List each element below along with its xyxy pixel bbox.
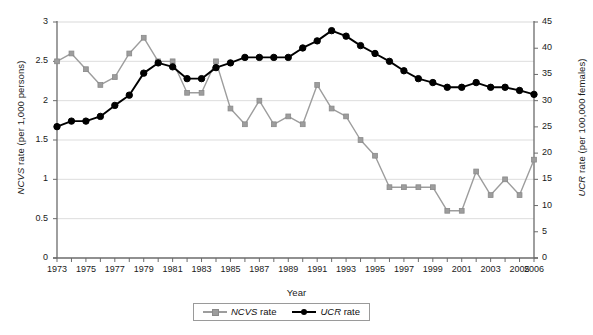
y-axis-left-tick-label: 0.5 xyxy=(22,213,48,223)
series-line xyxy=(57,38,534,211)
legend-label-ucr: UCR rate xyxy=(320,306,360,317)
y-axis-right-title-italic: UCR xyxy=(576,176,587,197)
data-point xyxy=(357,42,363,48)
data-point xyxy=(473,79,479,85)
y-axis-left-tick-label: 2.5 xyxy=(22,55,48,65)
data-point xyxy=(112,102,118,108)
data-point xyxy=(372,50,378,56)
y-axis-left-title-rest: rate (per 1,000 persons) xyxy=(15,61,26,168)
data-point xyxy=(532,157,537,162)
data-point xyxy=(69,51,74,56)
data-point xyxy=(98,83,103,88)
data-point xyxy=(517,193,522,198)
data-point xyxy=(228,106,233,111)
data-point xyxy=(199,90,204,95)
y-axis-right-tick-label: 10 xyxy=(542,200,568,210)
y-axis-left-tick-label: 1.5 xyxy=(22,134,48,144)
data-point xyxy=(415,75,421,81)
data-point xyxy=(503,177,508,182)
data-point xyxy=(386,58,392,64)
data-point xyxy=(68,118,74,124)
y-axis-right-tick-label: 30 xyxy=(542,95,568,105)
data-point xyxy=(141,35,146,40)
data-point xyxy=(84,67,89,72)
data-point xyxy=(300,45,306,51)
y-axis-right-tick-label: 25 xyxy=(542,121,568,131)
data-point xyxy=(328,27,334,33)
data-point xyxy=(285,54,291,60)
data-point xyxy=(169,64,175,70)
legend-item-ncvs[interactable]: NCVS rate xyxy=(203,306,276,317)
legend-marker-circle-icon xyxy=(292,307,316,316)
legend-label-ncvs: NCVS rate xyxy=(231,306,276,317)
y-axis-right-tick-label: 15 xyxy=(542,173,568,183)
data-point xyxy=(430,185,435,190)
chart-legend: NCVS rate UCR rate xyxy=(193,303,370,321)
data-point xyxy=(416,185,421,190)
data-point xyxy=(358,138,363,143)
data-point xyxy=(271,54,277,60)
y-axis-right-title: UCR rate (per 100,000 females) xyxy=(576,33,587,223)
y-axis-left-tick-label: 0 xyxy=(22,252,48,262)
data-point xyxy=(286,114,291,119)
series-ncvs-rate xyxy=(55,35,537,213)
data-point xyxy=(487,84,493,90)
legend-item-ucr[interactable]: UCR rate xyxy=(292,306,360,317)
y-axis-left-tick-label: 2 xyxy=(22,95,48,105)
x-axis-title: Year xyxy=(0,287,593,298)
data-point xyxy=(329,106,334,111)
y-axis-right-tick-label: 35 xyxy=(542,68,568,78)
data-point xyxy=(170,59,175,64)
data-point xyxy=(184,75,190,81)
data-point xyxy=(459,208,464,213)
data-point xyxy=(516,87,522,93)
data-point xyxy=(54,123,60,129)
data-point xyxy=(214,59,219,64)
data-point xyxy=(112,75,117,80)
data-point xyxy=(315,83,320,88)
data-point xyxy=(344,114,349,119)
y-axis-right-tick-label: 45 xyxy=(542,16,568,26)
chart-container: NCVS rate (per 1,000 persons) UCR rate (… xyxy=(0,0,593,335)
data-point xyxy=(373,153,378,158)
data-point xyxy=(198,75,204,81)
data-point xyxy=(474,169,479,174)
data-point xyxy=(531,91,537,97)
y-axis-left-tick-label: 1 xyxy=(22,173,48,183)
data-point xyxy=(227,60,233,66)
data-point xyxy=(141,70,147,76)
y-axis-right-tick-label: 0 xyxy=(542,252,568,262)
x-axis-tick-label: 2006 xyxy=(514,264,554,274)
data-point xyxy=(126,92,132,98)
data-point xyxy=(185,90,190,95)
data-point xyxy=(300,122,305,127)
data-point xyxy=(459,84,465,90)
data-point xyxy=(213,64,219,70)
data-point xyxy=(488,193,493,198)
data-point xyxy=(387,185,392,190)
data-point xyxy=(127,51,132,56)
data-point xyxy=(256,54,262,60)
data-point xyxy=(97,113,103,119)
y-axis-right-tick-label: 40 xyxy=(542,42,568,52)
y-axis-right-tick-label: 20 xyxy=(542,147,568,157)
data-point xyxy=(402,185,407,190)
data-point xyxy=(257,98,262,103)
data-point xyxy=(155,60,161,66)
data-point xyxy=(314,38,320,44)
data-point xyxy=(430,79,436,85)
series-line xyxy=(57,31,534,127)
y-axis-right-title-rest: rate (per 100,000 females) xyxy=(576,58,587,175)
data-point xyxy=(343,33,349,39)
y-axis-left-tick-label: 3 xyxy=(22,16,48,26)
data-point xyxy=(271,122,276,127)
series-ucr-rate xyxy=(54,27,537,129)
data-point xyxy=(242,54,248,60)
data-point xyxy=(83,118,89,124)
data-point xyxy=(502,84,508,90)
data-point xyxy=(401,68,407,74)
data-point xyxy=(444,84,450,90)
data-point xyxy=(445,208,450,213)
chart-plot-area xyxy=(0,0,593,335)
data-point xyxy=(55,59,60,64)
